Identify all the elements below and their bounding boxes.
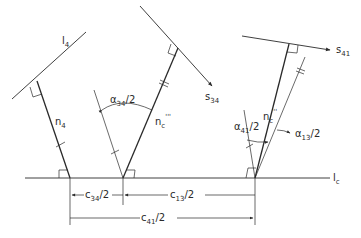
label-c41: c41/2	[141, 212, 165, 226]
label-alpha13: α13/2	[295, 128, 320, 142]
right-angle-mark	[59, 170, 68, 178]
arrow-s41	[242, 36, 330, 50]
geometry-diagram: lc l4 n4 s34 nc''' α34/2 s41 nc'' α13/2 …	[0, 0, 361, 238]
label-nc-double-prime: nc''	[263, 108, 277, 125]
line-l4	[12, 32, 86, 99]
label-alpha41: α41/2	[234, 121, 259, 135]
label-n4: n4	[55, 116, 66, 130]
label-c34: c34/2	[85, 189, 109, 203]
label-alpha34: α34/2	[110, 94, 135, 108]
label-s41: s41	[336, 44, 350, 58]
right-angle-mark	[127, 170, 135, 178]
label-s34: s34	[205, 91, 220, 105]
normal-nc-double-prime	[255, 44, 289, 178]
label-l4: l4	[62, 35, 70, 49]
label-lc: lc	[333, 172, 340, 186]
tick-mark	[297, 68, 305, 71]
tick-mark	[296, 71, 304, 74]
label-c13: c13/2	[170, 189, 194, 203]
angle-arc-13	[277, 130, 290, 133]
label-nc-triple-prime: nc'''	[155, 113, 171, 130]
arrow-s34	[140, 6, 212, 86]
